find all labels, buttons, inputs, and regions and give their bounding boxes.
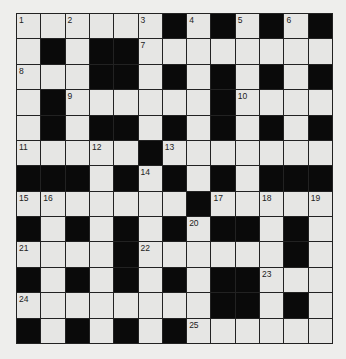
crossword-cell[interactable] xyxy=(284,319,307,343)
crossword-cell[interactable]: 21 xyxy=(17,242,40,266)
crossword-cell[interactable]: 18 xyxy=(260,192,283,216)
crossword-cell[interactable] xyxy=(41,293,64,317)
crossword-cell[interactable] xyxy=(309,242,332,266)
crossword-cell[interactable] xyxy=(187,293,210,317)
crossword-cell[interactable] xyxy=(139,268,162,292)
crossword-cell[interactable] xyxy=(260,90,283,114)
crossword-cell[interactable] xyxy=(187,90,210,114)
crossword-cell[interactable] xyxy=(66,116,89,140)
crossword-cell[interactable] xyxy=(260,141,283,165)
crossword-cell[interactable] xyxy=(187,268,210,292)
crossword-cell[interactable] xyxy=(66,242,89,266)
crossword-cell[interactable] xyxy=(284,268,307,292)
crossword-cell[interactable]: 17 xyxy=(211,192,234,216)
crossword-cell[interactable] xyxy=(66,293,89,317)
crossword-cell[interactable] xyxy=(187,116,210,140)
crossword-cell[interactable]: 2 xyxy=(66,14,89,38)
crossword-cell[interactable]: 1 xyxy=(17,14,40,38)
crossword-cell[interactable]: 25 xyxy=(187,319,210,343)
crossword-cell[interactable] xyxy=(309,217,332,241)
crossword-cell[interactable] xyxy=(139,65,162,89)
crossword-cell[interactable] xyxy=(139,90,162,114)
crossword-cell[interactable]: 20 xyxy=(187,217,210,241)
crossword-cell[interactable] xyxy=(284,116,307,140)
crossword-cell[interactable] xyxy=(41,65,64,89)
crossword-cell[interactable] xyxy=(41,141,64,165)
crossword-cell[interactable] xyxy=(66,141,89,165)
crossword-cell[interactable] xyxy=(90,293,113,317)
crossword-cell[interactable] xyxy=(236,39,259,63)
crossword-cell[interactable] xyxy=(309,319,332,343)
crossword-cell[interactable]: 9 xyxy=(66,90,89,114)
crossword-cell[interactable]: 15 xyxy=(17,192,40,216)
crossword-cell[interactable] xyxy=(90,166,113,190)
crossword-cell[interactable] xyxy=(139,217,162,241)
crossword-cell[interactable]: 12 xyxy=(90,141,113,165)
crossword-cell[interactable] xyxy=(284,192,307,216)
crossword-cell[interactable] xyxy=(17,90,40,114)
crossword-cell[interactable] xyxy=(66,192,89,216)
crossword-cell[interactable] xyxy=(309,141,332,165)
crossword-cell[interactable] xyxy=(139,192,162,216)
crossword-cell[interactable] xyxy=(260,39,283,63)
crossword-cell[interactable] xyxy=(284,65,307,89)
crossword-cell[interactable]: 13 xyxy=(163,141,186,165)
crossword-cell[interactable]: 4 xyxy=(187,14,210,38)
crossword-cell[interactable]: 23 xyxy=(260,268,283,292)
crossword-cell[interactable] xyxy=(163,293,186,317)
crossword-cell[interactable] xyxy=(114,90,137,114)
crossword-cell[interactable] xyxy=(41,242,64,266)
crossword-cell[interactable]: 5 xyxy=(236,14,259,38)
crossword-cell[interactable] xyxy=(236,116,259,140)
crossword-cell[interactable] xyxy=(260,293,283,317)
crossword-cell[interactable] xyxy=(163,242,186,266)
crossword-cell[interactable] xyxy=(309,268,332,292)
crossword-cell[interactable] xyxy=(90,242,113,266)
crossword-cell[interactable]: 14 xyxy=(139,166,162,190)
crossword-cell[interactable] xyxy=(309,90,332,114)
crossword-cell[interactable] xyxy=(114,14,137,38)
crossword-cell[interactable] xyxy=(309,39,332,63)
crossword-cell[interactable] xyxy=(236,166,259,190)
crossword-cell[interactable] xyxy=(187,39,210,63)
crossword-cell[interactable] xyxy=(260,217,283,241)
crossword-cell[interactable] xyxy=(41,14,64,38)
crossword-cell[interactable] xyxy=(90,192,113,216)
crossword-cell[interactable] xyxy=(211,39,234,63)
crossword-cell[interactable] xyxy=(284,90,307,114)
crossword-cell[interactable] xyxy=(236,141,259,165)
crossword-cell[interactable] xyxy=(41,319,64,343)
crossword-cell[interactable] xyxy=(17,116,40,140)
crossword-cell[interactable] xyxy=(284,39,307,63)
crossword-cell[interactable] xyxy=(211,141,234,165)
crossword-cell[interactable] xyxy=(187,141,210,165)
crossword-cell[interactable]: 24 xyxy=(17,293,40,317)
crossword-cell[interactable] xyxy=(41,268,64,292)
crossword-cell[interactable] xyxy=(236,242,259,266)
crossword-cell[interactable] xyxy=(41,217,64,241)
crossword-cell[interactable] xyxy=(114,141,137,165)
crossword-cell[interactable] xyxy=(236,319,259,343)
crossword-cell[interactable]: 3 xyxy=(139,14,162,38)
crossword-cell[interactable] xyxy=(66,39,89,63)
crossword-cell[interactable] xyxy=(236,192,259,216)
crossword-cell[interactable] xyxy=(139,319,162,343)
crossword-cell[interactable]: 16 xyxy=(41,192,64,216)
crossword-cell[interactable]: 7 xyxy=(139,39,162,63)
crossword-cell[interactable] xyxy=(90,319,113,343)
crossword-cell[interactable] xyxy=(187,65,210,89)
crossword-cell[interactable] xyxy=(139,293,162,317)
crossword-cell[interactable] xyxy=(90,90,113,114)
crossword-cell[interactable] xyxy=(114,293,137,317)
crossword-cell[interactable] xyxy=(66,65,89,89)
crossword-cell[interactable] xyxy=(260,242,283,266)
crossword-cell[interactable]: 11 xyxy=(17,141,40,165)
crossword-cell[interactable]: 22 xyxy=(139,242,162,266)
crossword-cell[interactable] xyxy=(260,319,283,343)
crossword-cell[interactable] xyxy=(284,141,307,165)
crossword-cell[interactable] xyxy=(163,90,186,114)
crossword-cell[interactable] xyxy=(139,116,162,140)
crossword-cell[interactable] xyxy=(309,293,332,317)
crossword-cell[interactable]: 19 xyxy=(309,192,332,216)
crossword-cell[interactable]: 8 xyxy=(17,65,40,89)
